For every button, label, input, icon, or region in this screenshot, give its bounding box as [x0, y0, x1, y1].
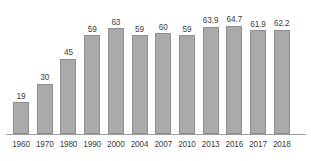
- bar: [60, 59, 76, 134]
- x-axis-tick-label: 2018: [269, 140, 295, 150]
- bar-value-label: 63: [104, 18, 128, 27]
- x-axis-tick-label: 1960: [8, 140, 34, 150]
- x-axis-tick-label: 1970: [32, 140, 58, 150]
- bar-group: 451980: [57, 0, 81, 161]
- bar-value-label: 63.9: [199, 16, 223, 25]
- bar: [274, 30, 290, 134]
- bar-group: 602007: [151, 0, 175, 161]
- bar-value-label: 59: [80, 25, 104, 34]
- x-axis-tick-label: 2016: [222, 140, 248, 150]
- bar: [250, 30, 266, 134]
- bar-value-label: 64.7: [223, 15, 247, 24]
- x-axis-tick-label: 2017: [245, 140, 271, 150]
- bar: [203, 27, 219, 134]
- bar-value-label: 61.9: [246, 20, 270, 29]
- bar-group: 301970: [33, 0, 57, 161]
- bar: [179, 35, 195, 134]
- bar-value-label: 62.2: [270, 19, 294, 28]
- bar-value-label: 19: [9, 92, 33, 101]
- bar-group: 63.92013: [199, 0, 223, 161]
- x-axis-tick-label: 2004: [127, 140, 153, 150]
- x-axis-tick-label: 2010: [174, 140, 200, 150]
- bar: [226, 26, 242, 134]
- bar: [155, 33, 171, 134]
- bar: [132, 35, 148, 134]
- bar: [108, 28, 124, 134]
- x-axis-tick-label: 1990: [79, 140, 105, 150]
- bar-value-label: 59: [128, 25, 152, 34]
- bar-chart: 1919603019704519805919906320005920046020…: [0, 0, 311, 161]
- bar-group: 64.72016: [223, 0, 247, 161]
- x-axis-tick-label: 2007: [150, 140, 176, 150]
- bar: [84, 35, 100, 134]
- bar: [37, 84, 53, 134]
- x-axis-tick-label: 2013: [198, 140, 224, 150]
- bar-value-label: 45: [57, 48, 81, 57]
- bar-group: 592004: [128, 0, 152, 161]
- bar: [13, 102, 29, 134]
- bar-value-label: 60: [151, 23, 175, 32]
- x-axis-tick-label: 2000: [103, 140, 129, 150]
- bar-group: 61.92017: [246, 0, 270, 161]
- plot-area: 1919603019704519805919906320005920046020…: [0, 0, 311, 161]
- bar-group: 62.22018: [270, 0, 294, 161]
- bar-group: 591990: [80, 0, 104, 161]
- bar-group: 632000: [104, 0, 128, 161]
- bar-group: 592010: [175, 0, 199, 161]
- x-axis-tick-label: 1980: [56, 140, 82, 150]
- bar-value-label: 30: [33, 73, 57, 82]
- bar-group: 191960: [9, 0, 33, 161]
- bar-value-label: 59: [175, 25, 199, 34]
